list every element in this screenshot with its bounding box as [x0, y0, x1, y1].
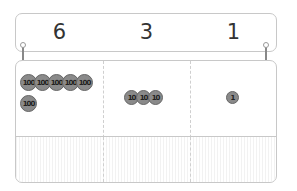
- tens-digit: 3: [103, 20, 190, 44]
- coin-100-icon: 100: [20, 95, 37, 112]
- coin-10-icon: 10: [148, 90, 163, 105]
- empty-answer-row: [16, 136, 276, 182]
- ones-digit: 1: [190, 20, 277, 44]
- number-header-card: 6 3 1: [15, 13, 277, 52]
- hundreds-coins: 100 100 100 100 100 100: [20, 74, 106, 112]
- column-divider: [190, 137, 191, 182]
- place-value-table: 100 100 100 100 100 100 10 10 10 1: [15, 60, 277, 183]
- coin-100-icon: 100: [76, 74, 93, 91]
- tens-coins: 10 10 10: [124, 90, 160, 105]
- ones-coins: 1: [226, 91, 236, 104]
- binder-ring-icon: [263, 42, 269, 48]
- column-divider: [103, 137, 104, 182]
- hundreds-digit: 6: [16, 20, 103, 44]
- binder-ring-icon: [20, 42, 26, 48]
- coin-1-icon: 1: [226, 91, 239, 104]
